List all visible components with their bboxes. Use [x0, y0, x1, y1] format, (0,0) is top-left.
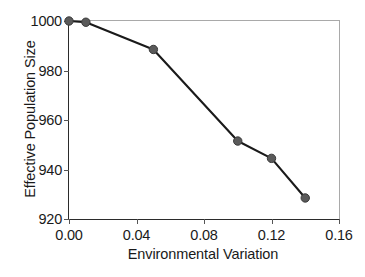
x-tick-mark	[272, 219, 273, 224]
x-tick-mark	[204, 219, 205, 224]
x-tick-mark	[69, 219, 70, 224]
x-tick-label: 0.12	[258, 227, 285, 243]
x-tick-mark	[137, 219, 138, 224]
data-series-layer	[69, 21, 339, 219]
data-point	[267, 154, 275, 162]
chart-figure: Effective Population Size 92094096098010…	[0, 0, 365, 277]
y-tick-label: 940	[38, 162, 62, 178]
y-tick-label: 960	[38, 112, 62, 128]
data-point	[82, 18, 90, 26]
x-tick-label: 0.04	[123, 227, 150, 243]
data-point	[301, 194, 309, 202]
x-tick-label: 0.16	[325, 227, 352, 243]
x-tick-label: 0.00	[55, 227, 82, 243]
y-tick-label: 920	[38, 211, 62, 227]
y-axis-title: Effective Population Size	[20, 8, 40, 230]
x-tick-label: 0.08	[190, 227, 217, 243]
series-line	[69, 21, 305, 198]
data-point	[234, 137, 242, 145]
data-point	[65, 17, 73, 25]
x-tick-mark	[339, 219, 340, 224]
y-tick-label: 980	[38, 63, 62, 79]
plot-area: 9209409609801000 0.000.040.080.120.16	[68, 20, 340, 220]
y-tick-label: 1000	[31, 13, 62, 29]
x-axis-title: Environmental Variation	[68, 246, 338, 262]
series-markers	[65, 17, 310, 202]
data-point	[149, 45, 157, 53]
